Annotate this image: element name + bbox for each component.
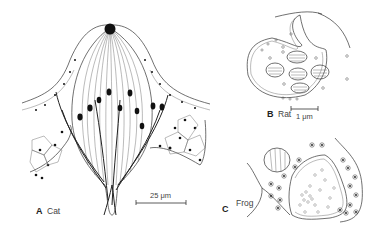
scale-bar-a: 25 μm (136, 191, 186, 205)
panel-c-letter: C (222, 204, 229, 214)
scale-label-b: 1 μm (296, 112, 313, 121)
panel-a-letter: A (36, 206, 43, 216)
scale-label-a: 25 μm (150, 191, 171, 200)
mitochondria (266, 51, 329, 93)
panel-a-name: Cat (47, 206, 61, 216)
panel-b-name: Rat (278, 109, 292, 119)
panel-b-rat-illustration (247, 12, 350, 100)
panel-c-name: Frog (236, 198, 254, 208)
scale-bar-b: 1 μm (291, 106, 318, 121)
panel-c-frog-illustration (247, 138, 362, 222)
panel-b-letter: B (267, 109, 274, 119)
panel-a-cat-illustration (22, 24, 210, 216)
figure-canvas: 25 μm A Cat (0, 0, 383, 238)
